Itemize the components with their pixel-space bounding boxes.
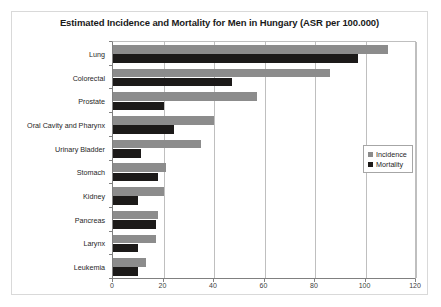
x-tick-label: 60 — [260, 282, 268, 289]
x-tick-label: 0 — [110, 282, 114, 289]
bar-mortality-pancreas — [113, 220, 156, 229]
bar-incidence-kidney — [113, 187, 164, 196]
bar-mortality-leukemia — [113, 267, 138, 276]
bar-mortality-kidney — [113, 196, 138, 205]
x-tick-label: 120 — [409, 282, 421, 289]
x-tick-mark — [314, 279, 315, 282]
bar-mortality-urinary-bladder — [113, 149, 141, 158]
bar-mortality-oral-cavity-and-pharynx — [113, 125, 174, 134]
category-label: Pancreas — [75, 215, 105, 224]
chart-legend: IncidenceMortality — [363, 145, 413, 173]
bar-mortality-stomach — [113, 173, 158, 182]
x-tick-mark — [415, 279, 416, 282]
category-label: Oral Cavity and Pharynx — [27, 120, 105, 129]
bar-incidence-oral-cavity-and-pharynx — [113, 116, 214, 125]
category-label: Colorectal — [73, 73, 105, 82]
bar-incidence-stomach — [113, 163, 166, 172]
x-tick-label: 80 — [310, 282, 318, 289]
category-label: Urinary Bladder — [55, 144, 105, 153]
legend-label: Mortality — [376, 160, 403, 169]
gridline — [416, 42, 417, 278]
category-label: Stomach — [77, 168, 105, 177]
category-label: Lung — [89, 49, 105, 58]
bar-incidence-colorectal — [113, 69, 330, 78]
legend-label: Incidence — [376, 150, 407, 159]
bar-incidence-pancreas — [113, 211, 158, 220]
category-label: Prostate — [78, 97, 105, 106]
category-axis-labels: LungColorectalProstateOral Cavity and Ph… — [12, 41, 109, 279]
category-label: Leukemia — [74, 263, 105, 272]
legend-swatch-icon — [368, 152, 373, 157]
category-label: Kidney — [83, 192, 105, 201]
legend-swatch-icon — [368, 162, 373, 167]
bar-mortality-lung — [113, 54, 358, 63]
legend-item-mortality: Mortality — [368, 159, 407, 169]
bar-incidence-larynx — [113, 235, 156, 244]
chart-title: Estimated Incidence and Mortality for Me… — [12, 17, 427, 28]
x-tick-mark — [264, 279, 265, 282]
legend-item-incidence: Incidence — [368, 149, 407, 159]
bar-incidence-lung — [113, 45, 388, 54]
x-tick-mark — [213, 279, 214, 282]
x-tick-mark — [365, 279, 366, 282]
bar-mortality-colorectal — [113, 78, 232, 87]
chart-frame: Estimated Incidence and Mortality for Me… — [11, 11, 428, 295]
category-label: Larynx — [83, 239, 105, 248]
bar-mortality-larynx — [113, 244, 138, 253]
bar-incidence-leukemia — [113, 258, 146, 267]
x-tick-label: 40 — [209, 282, 217, 289]
x-tick-label: 20 — [159, 282, 167, 289]
x-tick-label: 100 — [359, 282, 371, 289]
x-tick-mark — [163, 279, 164, 282]
bar-incidence-urinary-bladder — [113, 140, 201, 149]
bar-incidence-prostate — [113, 92, 257, 101]
value-axis-labels: 020406080100120 — [12, 282, 427, 296]
bar-mortality-prostate — [113, 102, 164, 111]
x-tick-mark — [112, 279, 113, 282]
